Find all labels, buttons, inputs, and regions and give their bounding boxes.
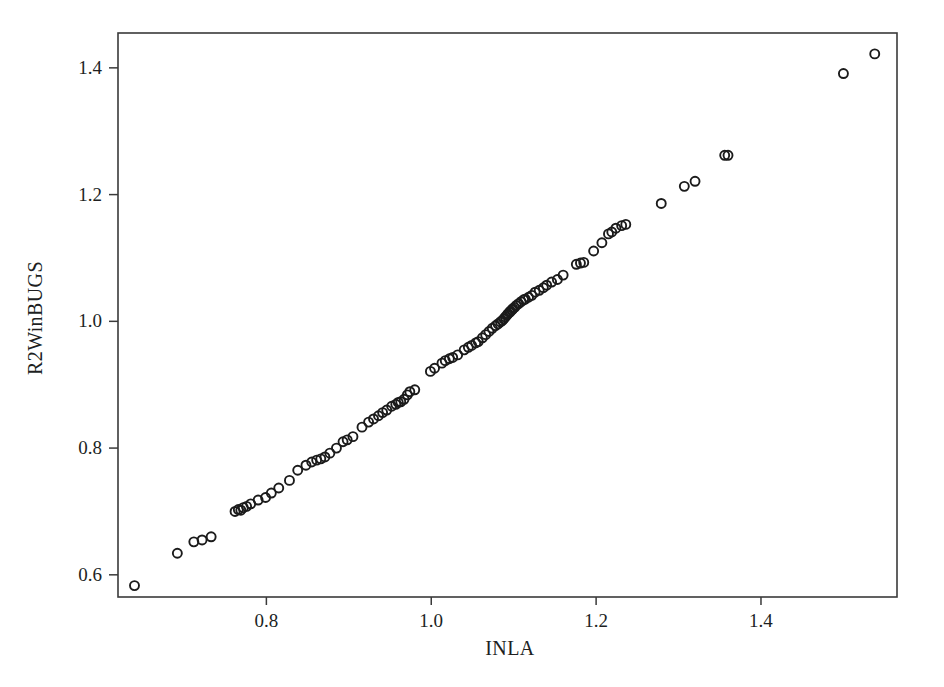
x-tick-label: 1.0 bbox=[419, 610, 443, 631]
y-axis-title: R2WinBUGS bbox=[24, 261, 46, 375]
x-tick-label: 1.2 bbox=[584, 610, 608, 631]
scatter-plot-figure: 0.81.01.21.4 0.60.81.01.21.4 INLA R2WinB… bbox=[0, 0, 944, 687]
x-axis-title: INLA bbox=[485, 637, 535, 659]
x-tick-label: 1.4 bbox=[749, 610, 773, 631]
y-tick-label: 1.0 bbox=[78, 310, 102, 331]
y-tick-label: 0.8 bbox=[78, 437, 102, 458]
y-tick-label: 0.6 bbox=[78, 564, 102, 585]
y-tick-label: 1.4 bbox=[78, 57, 102, 78]
plot-canvas: 0.81.01.21.4 0.60.81.01.21.4 INLA R2WinB… bbox=[0, 0, 944, 687]
x-tick-label: 0.8 bbox=[255, 610, 279, 631]
y-tick-label: 1.2 bbox=[78, 184, 102, 205]
